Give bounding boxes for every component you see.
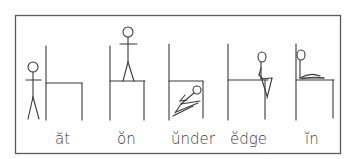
chair-icon <box>169 44 203 120</box>
panel-at: ăt <box>26 46 82 148</box>
label-on: ŏn <box>117 130 136 148</box>
chair-icon <box>46 46 82 120</box>
stick-figure-icon <box>173 86 201 116</box>
stick-figure-icon <box>258 52 272 98</box>
label-under: ŭnder <box>171 130 216 148</box>
chair-icon <box>296 44 334 120</box>
panel-under: ŭnder <box>169 44 216 148</box>
label-at: ăt <box>55 130 70 148</box>
panel-in: ĭn <box>296 44 334 148</box>
stick-figure-icon <box>297 50 324 79</box>
stick-figure-icon <box>120 27 137 81</box>
preposition-diagram: ăt ŏn <box>0 0 356 159</box>
stick-figure-icon <box>26 62 41 119</box>
label-in: ĭn <box>304 130 319 148</box>
panel-on: ŏn <box>110 27 145 148</box>
panel-edge: ĕdge <box>228 44 272 148</box>
label-edge: ĕdge <box>230 130 267 148</box>
chair-icon <box>228 44 268 120</box>
